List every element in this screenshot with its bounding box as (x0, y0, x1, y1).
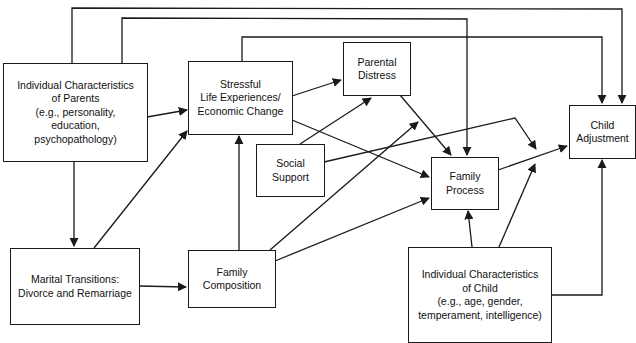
edge-support-distress (300, 98, 371, 144)
node-parent-characteristics: Individual Characteristics of Parents (e… (3, 63, 148, 162)
node-label: (e.g., personality, (17, 106, 134, 120)
node-label: Individual Characteristics (17, 79, 134, 93)
node-child-characteristics: Individual Characteristics of Child (e.g… (408, 247, 552, 343)
edge-child-adjustment (551, 160, 602, 295)
node-label: Stressful (198, 78, 284, 92)
node-label: of Parents (17, 92, 134, 106)
node-label: Process (446, 184, 484, 198)
node-family-process: Family Process (431, 157, 499, 210)
edge-marital-composition (139, 286, 186, 287)
edge-composition-process (275, 198, 429, 261)
edge-parents-stress (147, 110, 187, 117)
node-label: (e.g., age, gender, (418, 295, 542, 309)
node-label: temperament, intelligence) (418, 309, 542, 323)
node-label: Distress (357, 69, 396, 83)
node-label: Divorce and Remarriage (18, 287, 132, 301)
node-label: psychopathology) (17, 133, 134, 147)
node-parental-distress: Parental Distress (343, 42, 411, 96)
edge-parents-process (122, 18, 467, 155)
node-family-composition: Family Composition (188, 250, 276, 308)
node-label: Individual Characteristics (418, 268, 542, 282)
node-marital-transitions: Marital Transitions: Divorce and Remarri… (10, 248, 140, 325)
node-label: of Child (418, 282, 542, 296)
edge-support-moderation (324, 118, 536, 162)
node-label: Parental (357, 56, 396, 70)
edge-stress-adjustment (242, 37, 602, 103)
node-label: Economic Change (198, 105, 284, 119)
edge-process-adjustment (498, 146, 567, 170)
node-label: Adjustment (576, 132, 629, 146)
node-label: Family (203, 266, 261, 280)
node-stressful-life-experiences: Stressful Life Experiences/ Economic Cha… (188, 61, 293, 135)
node-label: Support (272, 171, 309, 185)
node-label: Child (576, 119, 629, 133)
node-label: Life Experiences/ (198, 91, 284, 105)
node-label: Family (446, 170, 484, 184)
node-label: Composition (203, 279, 261, 293)
node-label: education, (17, 119, 134, 133)
node-label: Social (272, 157, 309, 171)
node-label: Marital Transitions: (18, 273, 132, 287)
edge-child-process (468, 211, 472, 247)
node-social-support: Social Support (256, 144, 325, 197)
edge-stress-distress (292, 80, 341, 96)
edge-distress-process (400, 95, 451, 155)
edge-child-moderation (499, 164, 535, 247)
node-child-adjustment: Child Adjustment (569, 105, 636, 159)
